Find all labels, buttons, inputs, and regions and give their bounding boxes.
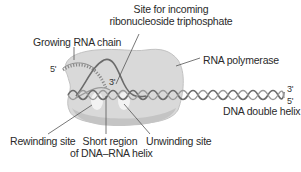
- label-site-incoming-line2: ribonucleoside triphosphate: [96, 15, 246, 27]
- marker-rna-5prime: 5': [50, 63, 56, 75]
- marker-dna-3prime: 3': [287, 83, 293, 95]
- rna-polymerase-shape: [65, 49, 183, 126]
- label-short-region: Short region of DNA–RNA helix: [70, 135, 150, 159]
- label-growing-rna-chain: Growing RNA chain: [33, 36, 121, 48]
- marker-rna-3prime: 3': [109, 76, 115, 88]
- label-site-incoming-line1: Site for incoming: [96, 3, 246, 15]
- label-rewinding-site: Rewinding site: [10, 135, 76, 147]
- label-rna-polymerase: RNA polymerase: [203, 54, 279, 66]
- label-site-incoming: Site for incoming ribonucleoside triphos…: [96, 3, 246, 27]
- label-short-region-line2: of DNA–RNA helix: [70, 147, 150, 159]
- label-short-region-line1: Short region: [70, 135, 150, 147]
- label-dna-double-helix: DNA double helix: [223, 105, 300, 117]
- transcription-diagram: Site for incoming ribonucleoside triphos…: [0, 0, 301, 172]
- label-unwinding-site: Unwinding site: [146, 135, 212, 147]
